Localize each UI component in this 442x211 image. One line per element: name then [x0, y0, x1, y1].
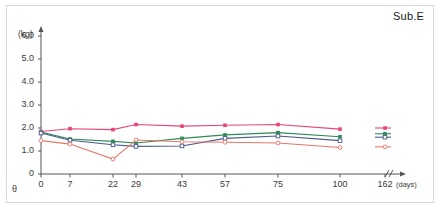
data-point-marker [68, 127, 72, 131]
data-point-marker [223, 140, 227, 144]
data-point-marker [111, 128, 115, 132]
data-point-marker [180, 144, 184, 148]
data-point-marker [338, 139, 342, 143]
data-point-marker [223, 137, 227, 141]
axes-layer [38, 26, 406, 178]
data-point-marker [180, 124, 184, 128]
data-point-marker [223, 123, 227, 127]
data-point-marker [134, 123, 138, 127]
data-point-marker [134, 145, 138, 149]
data-point-marker [68, 138, 72, 142]
data-point-marker [111, 157, 115, 161]
data-point-marker [338, 146, 342, 150]
data-point-marker [134, 138, 138, 142]
series-series-magenta [39, 123, 391, 134]
data-point-marker [39, 139, 43, 143]
y-axis-arrow [39, 26, 44, 32]
series-layer [39, 123, 391, 161]
x-axis-arrow [400, 172, 406, 177]
series-line [41, 140, 340, 159]
data-point-marker [68, 142, 72, 146]
data-point-marker [180, 140, 184, 144]
data-point-marker [383, 145, 387, 149]
data-point-marker [383, 135, 387, 139]
plot-area [0, 0, 442, 211]
series-line [41, 125, 340, 132]
data-point-marker [383, 126, 387, 130]
data-point-marker [276, 134, 280, 138]
data-point-marker [111, 143, 115, 147]
data-point-marker [338, 135, 342, 139]
data-point-marker [276, 123, 280, 127]
chart-screenshot: Sub.E (kg) (days) θ 01.02.03.04.05.06.0 … [0, 0, 442, 211]
data-point-marker [276, 141, 280, 145]
data-point-marker [338, 127, 342, 131]
data-point-marker [39, 131, 43, 135]
